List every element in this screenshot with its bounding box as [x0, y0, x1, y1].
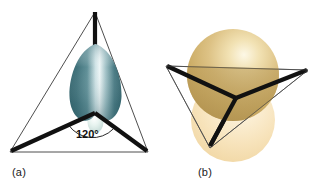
- panel-a: 120° (a): [0, 0, 160, 190]
- bond-angle-label: 120°: [76, 128, 99, 140]
- panel-caption-a: (a): [12, 166, 26, 178]
- panel-a-illustration: [0, 0, 160, 190]
- figure-root: 120° (a): [0, 0, 318, 190]
- bond-lower-right-a: [95, 113, 147, 151]
- hybrid-orbital-lobe-a: [69, 44, 121, 121]
- panel-caption-b: (b): [198, 166, 212, 178]
- panel-b: (b): [158, 0, 318, 190]
- panel-b-illustration: [158, 0, 318, 190]
